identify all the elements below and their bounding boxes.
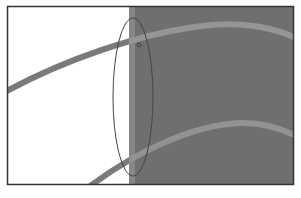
diagram-figure [0, 0, 301, 198]
